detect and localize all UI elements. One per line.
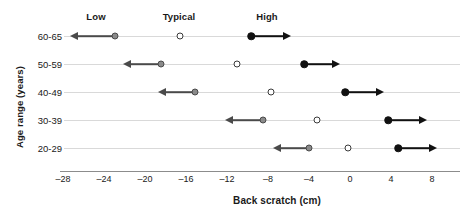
row-label-30-39: 30-39	[22, 115, 62, 126]
low-arrow-head	[225, 116, 233, 124]
column-header-low: Low	[86, 11, 105, 22]
low-arrow-shaft	[131, 63, 161, 65]
low-marker	[158, 61, 165, 68]
high-arrow-shaft	[345, 91, 377, 93]
high-arrow-head	[419, 116, 427, 124]
column-header-high: High	[256, 11, 278, 22]
low-marker	[306, 145, 313, 152]
low-arrow-shaft	[233, 119, 263, 121]
typical-marker	[314, 117, 321, 124]
y-axis-title: Age range (years)	[14, 66, 25, 148]
low-arrow-head	[123, 60, 131, 68]
x-tick-label: –28	[55, 174, 70, 184]
x-tick-label: 0	[347, 174, 352, 184]
x-tick-label: 4	[388, 174, 393, 184]
x-axis-line	[60, 171, 460, 172]
low-marker	[192, 89, 199, 96]
x-tick-label: –12	[219, 174, 234, 184]
typical-marker	[177, 33, 184, 40]
low-arrow-shaft	[78, 35, 115, 37]
high-arrow-shaft	[388, 119, 420, 121]
low-marker	[112, 33, 119, 40]
x-tick-label: 8	[429, 174, 434, 184]
x-axis-title: Back scratch (cm)	[233, 195, 321, 206]
low-arrow-head	[273, 144, 281, 152]
x-tick-label: –20	[137, 174, 152, 184]
low-arrow-head	[158, 88, 166, 96]
x-tick-label: –16	[178, 174, 193, 184]
high-arrow-shaft	[398, 147, 430, 149]
gridline	[64, 92, 460, 93]
high-arrow-head	[429, 144, 437, 152]
typical-marker	[345, 145, 352, 152]
row-label-40-49: 40-49	[22, 87, 62, 98]
low-arrow-head	[70, 32, 78, 40]
row-label-60-65: 60-65	[22, 31, 62, 42]
x-tick-label: –24	[96, 174, 111, 184]
high-arrow-head	[283, 32, 291, 40]
high-arrow-shaft	[304, 63, 333, 65]
back-scratch-chart: Low Typical High Age range (years) 60-65…	[0, 0, 466, 220]
column-header-typical: Typical	[163, 11, 196, 22]
typical-marker	[268, 89, 275, 96]
row-label-50-59: 50-59	[22, 59, 62, 70]
low-marker	[260, 117, 267, 124]
x-tick-label: –4	[304, 174, 314, 184]
row-label-20-29: 20-29	[22, 143, 62, 154]
high-arrow-head	[332, 60, 340, 68]
high-arrow-head	[376, 88, 384, 96]
x-tick-label: –8	[263, 174, 273, 184]
high-arrow-shaft	[251, 35, 284, 37]
typical-marker	[234, 61, 241, 68]
